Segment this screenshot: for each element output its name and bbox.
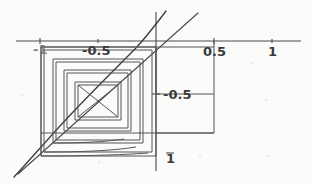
x-tick-label-neg-one: -1 (33, 42, 47, 57)
speck-6 (21, 94, 22, 95)
axes-group (16, 12, 301, 171)
scan-specks-group (21, 62, 269, 162)
x-tick-label-pos-one: 1 (268, 44, 277, 59)
speck-2 (267, 155, 269, 157)
speck-3 (251, 62, 252, 63)
speck-5 (98, 161, 99, 162)
y-tick-label-neg-half: -0.5 (163, 87, 191, 102)
x-tick-label-pos-half: 0.5 (203, 44, 226, 59)
y-tick-label-neg-one: 1 (166, 151, 175, 166)
x-tick-label-neg-half: -0.5 (82, 43, 110, 58)
plot-canvas: -1 -0.5 0.5 1 -0.5 1 (0, 0, 312, 183)
cobweb-tail-bottom2 (44, 147, 136, 152)
cobweb-plot: -1 -0.5 0.5 1 -0.5 1 (0, 0, 312, 183)
speck-1 (265, 99, 267, 101)
speck-4 (199, 155, 200, 156)
tick-labels-group: -1 -0.5 0.5 1 -0.5 1 (33, 42, 277, 166)
